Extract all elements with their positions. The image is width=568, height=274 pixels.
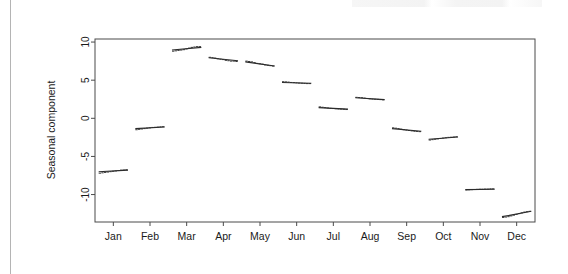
month-mean-line — [99, 170, 128, 172]
seasonal-component-chart: Seasonal component 1050-5-10 JanFebMarAp… — [0, 0, 568, 274]
month-segment-group — [355, 97, 384, 100]
month-segment-group — [319, 107, 348, 110]
x-axis-month-label: Apr — [215, 230, 232, 242]
y-axis-tick-label: 0 — [80, 115, 91, 121]
month-mean-line — [135, 127, 164, 129]
y-axis-tick-label: -5 — [80, 152, 91, 161]
month-mean-line — [319, 108, 348, 110]
month-mean-line — [245, 62, 274, 66]
x-axis-month-label: Aug — [361, 230, 380, 242]
month-mean-line — [172, 47, 201, 50]
month-mean-line — [209, 58, 238, 61]
x-axis-month-label: Jun — [288, 230, 305, 242]
month-segment-group — [502, 211, 531, 217]
month-mean-line — [429, 137, 458, 139]
plot-data-area — [99, 47, 532, 218]
month-segment-group — [429, 137, 458, 140]
x-axis-month-label: Feb — [141, 230, 159, 242]
monthplot-figure: Seasonal component 1050-5-10 JanFebMarAp… — [0, 0, 568, 274]
x-axis-month-label: Jan — [105, 230, 122, 242]
y-axis-tick-label: 5 — [80, 77, 91, 83]
month-mean-line — [502, 211, 531, 216]
month-mean-line — [282, 82, 311, 83]
plot-frame — [95, 39, 535, 222]
month-segment-group — [135, 127, 164, 130]
y-axis: 1050-5-10 — [80, 36, 95, 202]
x-axis-month-label: Sep — [397, 230, 416, 242]
month-segment-group — [392, 128, 421, 132]
plot-frame-box — [95, 39, 535, 222]
month-segment-group — [172, 47, 201, 52]
x-axis-month-label: Nov — [471, 230, 490, 242]
x-axis-month-label: Jul — [327, 230, 340, 242]
month-segment-group — [282, 82, 311, 84]
y-axis-title: Seasonal component — [45, 81, 57, 180]
month-mean-line — [392, 129, 421, 132]
x-axis-month-label: May — [250, 230, 271, 242]
y-axis-tick-label: 10 — [80, 36, 91, 48]
month-segment-group — [465, 189, 494, 190]
x-axis-month-label: Oct — [435, 230, 451, 242]
x-axis-month-label: Dec — [507, 230, 526, 242]
x-axis: JanFebMarAprMayJunJulAugSepOctNovDec — [105, 222, 526, 242]
month-segment-group — [209, 57, 238, 61]
month-segment-group — [245, 61, 274, 66]
y-axis-tick-label: -10 — [80, 187, 91, 202]
month-segment-group — [99, 170, 128, 173]
x-axis-month-label: Mar — [178, 230, 197, 242]
